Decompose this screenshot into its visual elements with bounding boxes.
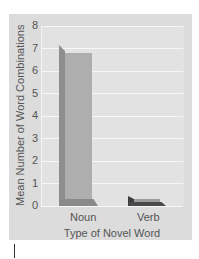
y-tick-8: 8 [28,20,38,31]
x-axis-label: Type of Novel Word [42,227,182,239]
bar-verb-base [129,202,166,206]
y-tick-3: 3 [28,133,38,144]
gridline-0 [41,206,183,207]
y-tick-4: 4 [28,110,38,121]
x-tick-verb: Verb [137,211,160,223]
bar-noun [65,53,92,199]
x-tick-noun: Noun [70,211,96,223]
y-tick-1: 1 [28,178,38,189]
y-tick-6: 6 [28,65,38,76]
text-cursor [14,244,15,258]
bar-noun-base [60,199,98,206]
y-axis-label: Mean Number of Word Combinations [14,26,26,206]
y-tick-0: 0 [28,200,38,211]
y-tick-7: 7 [28,43,38,54]
gridline-8 [41,26,183,27]
y-tick-2: 2 [28,155,38,166]
y-tick-5: 5 [28,88,38,99]
bar-verb [134,199,160,202]
